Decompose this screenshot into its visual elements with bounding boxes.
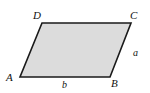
vertex-label-d: D (33, 10, 41, 21)
parallelogram-outline (20, 23, 131, 77)
side-label-b: b (62, 80, 67, 90)
side-label-a: a (133, 48, 138, 58)
vertex-label-a: A (6, 72, 13, 83)
parallelogram-figure: D C A B a b (0, 0, 150, 93)
vertex-label-c: C (130, 10, 137, 21)
parallelogram-shape (0, 0, 150, 93)
vertex-label-b: B (111, 78, 118, 89)
